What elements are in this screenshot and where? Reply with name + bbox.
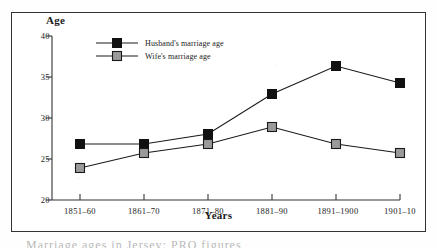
data-point-wife-2 <box>204 140 213 149</box>
page-bottom-text-fragment: Marriage ages in Jersey: PRO figures <box>26 238 326 248</box>
data-point-husband-1 <box>140 140 149 149</box>
data-point-husband-0 <box>76 140 85 149</box>
legend <box>96 39 138 61</box>
y-axis <box>46 36 52 200</box>
data-point-wife-0 <box>76 164 85 173</box>
data-point-wife-1 <box>140 149 149 158</box>
data-point-wife-3 <box>268 123 277 132</box>
series-wife <box>76 123 405 173</box>
legend-swatch-husband <box>113 39 122 48</box>
data-point-husband-5 <box>396 79 405 88</box>
chart-plot <box>0 0 437 248</box>
data-point-husband-2 <box>204 130 213 139</box>
data-point-wife-4 <box>332 140 341 149</box>
data-point-wife-5 <box>396 149 405 158</box>
chart-page: Age 40 35 30 25 20 1851–60 1861–70 1871–… <box>0 0 437 248</box>
data-point-husband-3 <box>268 90 277 99</box>
legend-swatch-wife <box>113 52 122 61</box>
data-point-husband-4 <box>332 62 341 71</box>
x-axis <box>52 194 400 200</box>
